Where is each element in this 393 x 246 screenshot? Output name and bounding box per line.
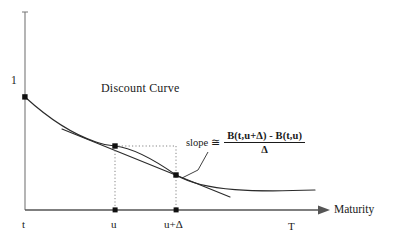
discount-curve-label: Discount Curve bbox=[101, 82, 179, 94]
axis-point-marker-u-plus-delta bbox=[174, 207, 179, 212]
slope-leader-line bbox=[182, 152, 208, 178]
x-tick-label-t: t bbox=[22, 219, 25, 230]
y-axis-value-label: 1 bbox=[11, 75, 17, 87]
point-marker-u bbox=[112, 143, 117, 148]
axis-point-marker-u bbox=[113, 207, 118, 212]
x-axis-arrowhead bbox=[318, 206, 330, 215]
slope-word-label: slope bbox=[186, 137, 208, 148]
x-axis-name-label: Maturity bbox=[334, 204, 374, 216]
slope-formula-annotation: slope ≅ B(t,u+Δ) - B(t,u) Δ bbox=[186, 130, 305, 155]
slope-fraction: B(t,u+Δ) - B(t,u) Δ bbox=[224, 130, 305, 155]
slope-denominator: Δ bbox=[258, 143, 271, 155]
point-marker-t bbox=[22, 94, 27, 99]
discount-curve-figure: 1 Discount Curve t u u+Δ T Maturity slop… bbox=[0, 0, 393, 246]
x-tick-label-u-plus-delta: u+Δ bbox=[164, 219, 183, 230]
approximately-equal-icon: ≅ bbox=[211, 136, 220, 149]
x-tick-label-T: T bbox=[288, 221, 295, 232]
point-marker-u-plus-delta bbox=[173, 172, 178, 177]
slope-numerator: B(t,u+Δ) - B(t,u) bbox=[224, 130, 305, 142]
x-tick-label-u: u bbox=[111, 219, 117, 230]
